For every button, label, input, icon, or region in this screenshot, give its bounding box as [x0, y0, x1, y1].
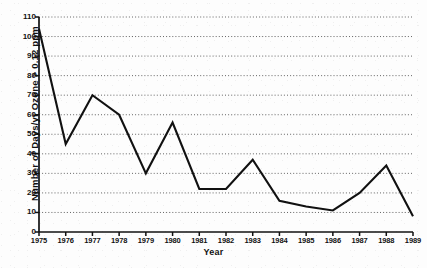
x-axis-title: Year — [0, 247, 427, 257]
x-tick-label: 1989 — [393, 236, 427, 245]
ozone-line-chart-figure: Number of Days/yr Ozone > 0.12 ppm 01020… — [0, 0, 427, 268]
x-axis-tick-labels: 1975197619771978197919801981198219831984… — [0, 0, 427, 268]
